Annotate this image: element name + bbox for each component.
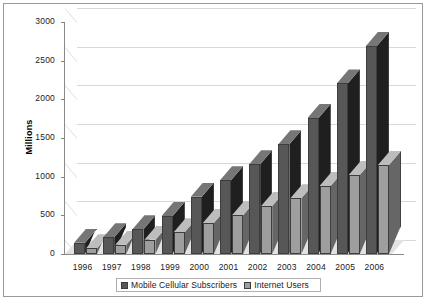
gridline-depth-edge xyxy=(65,85,77,114)
bar-front-face xyxy=(232,215,243,254)
bar-front-face xyxy=(115,245,126,254)
bar-front-face xyxy=(103,237,114,254)
y-tick-label: 1000 xyxy=(21,171,55,181)
y-tick-label: 2000 xyxy=(21,93,55,103)
x-tick-label: 2006 xyxy=(360,262,389,272)
x-tick-label: 2004 xyxy=(301,262,330,272)
x-tick-label: 1999 xyxy=(156,262,185,272)
y-tick-label: 3000 xyxy=(21,16,55,26)
legend-label: Mobile Cellular Subscribers xyxy=(131,280,237,290)
x-tick-label: 2001 xyxy=(214,262,243,272)
x-tick-label: 2005 xyxy=(331,262,360,272)
x-axis-line xyxy=(64,254,404,255)
chart-frame: Millions 050010001500200025003000 199619… xyxy=(3,3,423,297)
bar-front-face xyxy=(290,198,301,254)
y-tick-label: 500 xyxy=(21,209,55,219)
gridline xyxy=(77,8,416,9)
x-tick-label: 1998 xyxy=(126,262,155,272)
bar-chart: Millions 050010001500200025003000 199619… xyxy=(4,4,422,296)
bar-front-face xyxy=(337,83,348,254)
legend-item-1: Mobile Cellular Subscribers xyxy=(121,280,237,290)
bar-front-face xyxy=(203,223,214,254)
x-tick-label: 2002 xyxy=(243,262,272,272)
legend-item-2: Internet Users xyxy=(244,280,309,290)
gridline-depth-edge xyxy=(65,47,77,76)
bar-front-face xyxy=(144,240,155,254)
gridline-depth-edge xyxy=(65,124,77,153)
x-tick-label: 2003 xyxy=(272,262,301,272)
bar-front-face xyxy=(378,165,389,254)
bar-front-face xyxy=(174,232,185,254)
y-axis-line xyxy=(64,22,65,254)
y-tick-label: 0 xyxy=(21,248,55,258)
bar-front-face xyxy=(278,144,289,254)
y-tick-label: 1500 xyxy=(21,132,55,142)
bar-front-face xyxy=(162,216,173,254)
bar-front-face xyxy=(220,180,231,254)
chart-legend: Mobile Cellular SubscribersInternet User… xyxy=(116,278,321,292)
bar-front-face xyxy=(191,197,202,254)
legend-swatch-icon xyxy=(121,282,128,289)
x-tick-label: 2000 xyxy=(185,262,214,272)
bar-front-face xyxy=(261,206,272,254)
bar-front-face xyxy=(74,243,85,254)
x-tick-label: 1997 xyxy=(97,262,126,272)
gridline-depth-edge xyxy=(65,201,77,230)
legend-label: Internet Users xyxy=(254,280,309,290)
bar-front-face xyxy=(249,164,260,254)
gridline-depth-edge xyxy=(65,163,77,192)
y-tick-label: 2500 xyxy=(21,55,55,65)
gridline-depth-edge xyxy=(65,8,77,37)
bar-front-face xyxy=(308,118,319,254)
x-tick-label: 1996 xyxy=(68,262,97,272)
legend-swatch-icon xyxy=(244,282,251,289)
bar-2006-series-2 xyxy=(378,151,401,254)
bar-front-face xyxy=(349,175,360,254)
bar-side-face xyxy=(389,151,401,254)
bar-front-face xyxy=(86,248,97,254)
bar-front-face xyxy=(366,46,377,254)
bar-front-face xyxy=(320,186,331,254)
bar-front-face xyxy=(132,229,143,254)
